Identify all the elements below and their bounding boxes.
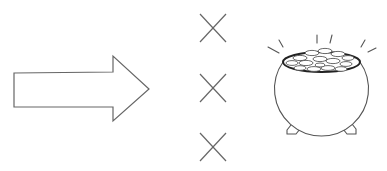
diagram-canvas: Arrow pointing right toward three X mark… bbox=[0, 0, 387, 171]
x-mark-icon bbox=[200, 133, 226, 161]
right-arrow-icon bbox=[14, 56, 149, 121]
x-mark-icon bbox=[200, 14, 226, 42]
x-mark-icon bbox=[200, 74, 226, 102]
pot-of-gold-icon bbox=[268, 35, 376, 136]
coins-icon bbox=[286, 48, 354, 71]
